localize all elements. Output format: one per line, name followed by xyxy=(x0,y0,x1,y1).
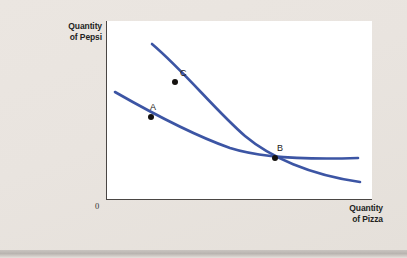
steeper-indifference-curve xyxy=(152,44,360,182)
card-drop-shadow xyxy=(0,250,407,258)
figure-card: Quantity of Pepsi Quantity of Pizza 0 A … xyxy=(0,0,407,250)
chart-figure: Quantity of Pepsi Quantity of Pizza 0 A … xyxy=(0,0,407,250)
point-b-label: B xyxy=(277,144,283,153)
point-b-marker xyxy=(272,155,278,161)
point-c-label: C xyxy=(180,69,187,78)
point-c-marker xyxy=(172,79,178,85)
indifference-curves-svg xyxy=(0,0,407,250)
point-a-label: A xyxy=(150,103,156,112)
point-a-marker xyxy=(148,114,154,120)
